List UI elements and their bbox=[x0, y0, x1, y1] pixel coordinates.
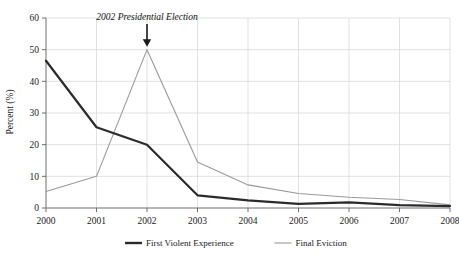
x-axis-tick-labels: 200020012002200320042005200620072008 bbox=[37, 216, 459, 226]
x-tick-label: 2003 bbox=[188, 216, 207, 226]
y-tick-label: 50 bbox=[30, 45, 40, 55]
chart-figure: 0102030405060 20002001200220032004200520… bbox=[0, 0, 459, 261]
y-tick-label: 30 bbox=[30, 108, 40, 118]
x-tick-label: 2007 bbox=[390, 216, 409, 226]
line-chart-canvas: 0102030405060 20002001200220032004200520… bbox=[0, 0, 459, 261]
x-tick-label: 2002 bbox=[138, 216, 157, 226]
y-tick-label: 20 bbox=[30, 140, 40, 150]
x-tick-label: 2004 bbox=[239, 216, 258, 226]
y-tick-label: 40 bbox=[30, 77, 40, 87]
y-tick-label: 60 bbox=[30, 13, 40, 23]
x-tick-label: 2006 bbox=[340, 216, 359, 226]
y-tick-label: 0 bbox=[34, 203, 39, 213]
y-tick-label: 10 bbox=[30, 172, 40, 182]
annotation-label: 2002 Presidential Election bbox=[96, 12, 198, 22]
x-tick-label: 2008 bbox=[441, 216, 459, 226]
x-tick-label: 2001 bbox=[87, 216, 106, 226]
x-tick-label: 2000 bbox=[37, 216, 56, 226]
legend-label: Final Eviction bbox=[295, 238, 347, 248]
y-axis-title: Percent (%) bbox=[5, 89, 16, 134]
x-tick-label: 2005 bbox=[289, 216, 308, 226]
legend-label: First Violent Experience bbox=[146, 238, 234, 248]
